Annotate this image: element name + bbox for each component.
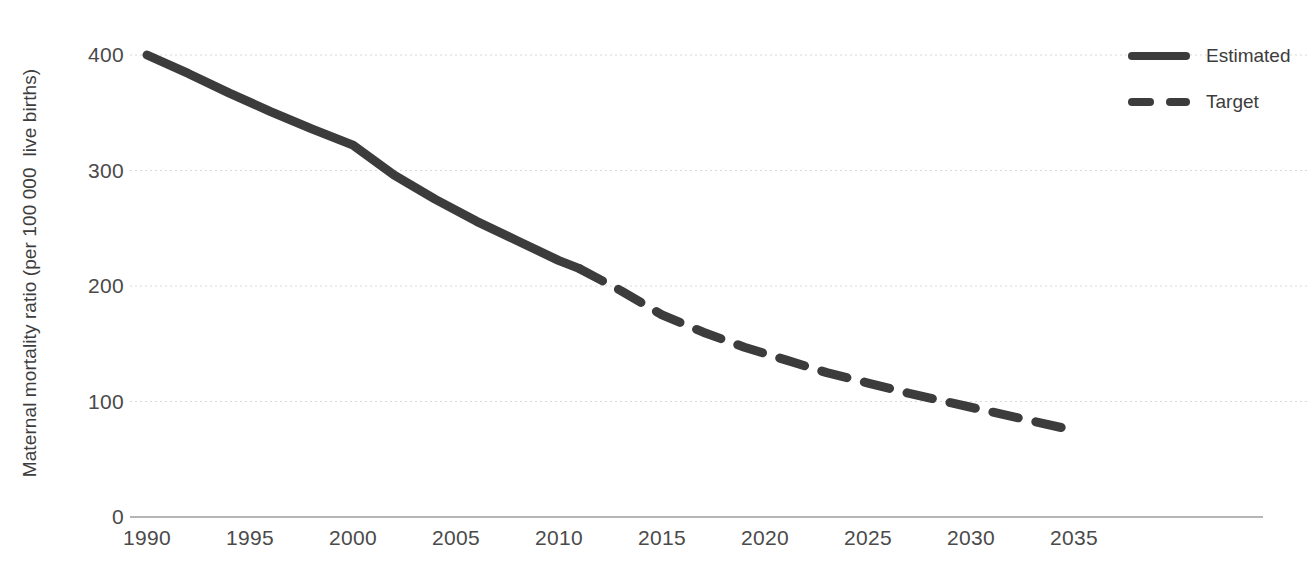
legend-item-estimated[interactable]: Estimated (1128, 40, 1306, 72)
x-tick-1990: 1990 (102, 526, 192, 550)
x-tick-2025: 2025 (823, 526, 913, 550)
x-tick-2000: 2000 (308, 526, 398, 550)
legend-label-estimated: Estimated (1206, 45, 1290, 67)
legend-label-target: Target (1206, 91, 1259, 113)
legend-swatch-solid-icon (1128, 52, 1190, 60)
legend-swatch-dashed-icon (1128, 98, 1190, 106)
series-estimated-line (147, 55, 580, 269)
x-tick-2020: 2020 (720, 526, 810, 550)
x-tick-1995: 1995 (205, 526, 295, 550)
x-tick-2035: 2035 (1029, 526, 1119, 550)
plot-canvas (0, 0, 1310, 582)
chart-legend: Estimated Target (1128, 40, 1306, 132)
maternal-mortality-line-chart: 400 300 200 100 0 Maternal mortality rat… (0, 0, 1310, 582)
x-tick-2005: 2005 (411, 526, 501, 550)
x-tick-2010: 2010 (514, 526, 604, 550)
x-tick-2030: 2030 (926, 526, 1016, 550)
series-target-line (580, 269, 1074, 431)
x-tick-2015: 2015 (617, 526, 707, 550)
legend-item-target[interactable]: Target (1128, 86, 1306, 118)
series-group (147, 55, 1074, 430)
